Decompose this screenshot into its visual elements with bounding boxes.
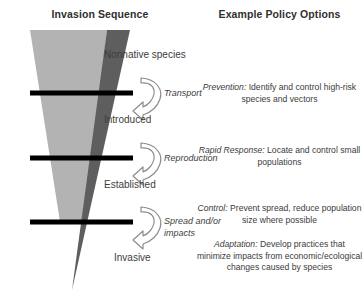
policy-body-control: Prevent spread, reduce population size w… — [228, 203, 362, 225]
stage-label-established: Established — [104, 179, 156, 190]
policy-lead-control: Control: — [198, 203, 228, 213]
stage-label-introduced: Introduced — [104, 114, 151, 125]
barrier-spread — [30, 220, 133, 225]
policy-lead-adaptation: Adaptation: — [214, 239, 257, 249]
spread-arrow-icon — [133, 207, 161, 249]
policy-option-adaptation: Adaptation: Develop practices that minim… — [196, 239, 363, 274]
barrier-reproduction — [30, 156, 133, 161]
barrier-transport — [30, 91, 133, 96]
policy-body-rapid-response: Locate and control small populations — [258, 145, 361, 167]
policy-option-prevention: Prevention: Identify and control high-ri… — [196, 82, 363, 105]
policy-lead-rapid-response: Rapid Response: — [199, 145, 265, 155]
invasion-sequence-figure: Invasion Sequence Example Policy Options… — [0, 0, 363, 300]
policy-lead-prevention: Prevention: — [203, 82, 246, 92]
policy-option-rapid-response: Rapid Response: Locate and control small… — [196, 145, 363, 168]
stage-label-invasive: Invasive — [114, 252, 151, 263]
policy-body-prevention: Identify and control high-risk species a… — [242, 82, 357, 104]
transition-label-spread-impacts-line2: impacts — [164, 228, 195, 239]
stage-label-nonnative-species: Nonnative species — [104, 49, 186, 60]
policy-option-control: Control: Prevent spread, reduce populati… — [196, 203, 363, 226]
